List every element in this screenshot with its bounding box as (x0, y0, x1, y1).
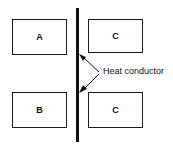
heat-conductor-bar (76, 8, 79, 142)
body-box-c-bottom: C (88, 92, 143, 128)
body-box-b-label: B (36, 106, 43, 115)
leader-line-lower (85, 74, 99, 88)
arrowhead-lower-icon (79, 85, 87, 93)
body-box-a-label: A (36, 33, 43, 42)
body-box-c-top-label: C (112, 32, 119, 41)
leader-line-upper (84, 58, 99, 72)
body-box-c-bottom-label: C (112, 106, 119, 115)
arrowhead-upper-icon (79, 54, 86, 61)
body-box-c-top: C (88, 19, 143, 53)
heat-conductor-diagram: A C B C Heat conductor (0, 0, 173, 147)
heat-conductor-callout-label: Heat conductor (103, 67, 164, 76)
body-box-b: B (12, 92, 67, 128)
body-box-a: A (12, 19, 67, 55)
